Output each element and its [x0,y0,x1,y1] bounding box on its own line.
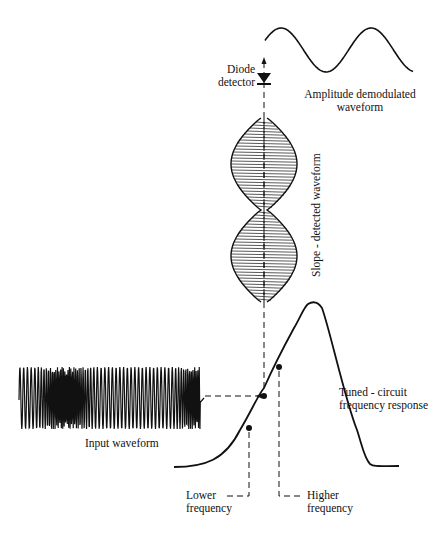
higher-frequency-leader [279,371,303,496]
input-fm-waveform [19,367,204,429]
lower-label-line1: Lower [186,489,232,502]
arrow-up-icon [262,57,267,64]
lower-frequency-label: Lower frequency [186,489,232,515]
lower-frequency-leader [226,432,249,496]
amplitude-demodulated-label: Amplitude demodulated waveform [300,88,420,114]
tuned-circuit-response-curve [174,302,399,467]
center-frequency-point [261,393,267,399]
slope-detected-waveform [231,118,297,302]
tuned-label-line1: Tuned - circuit [339,386,428,399]
amplitude-label-line2: waveform [300,101,420,114]
diode-detector-label: Diode detector [218,63,255,89]
lower-label-line2: frequency [186,502,232,515]
higher-label-line1: Higher [307,489,353,502]
amplitude-label-line1: Amplitude demodulated [300,88,420,101]
higher-frequency-label: Higher frequency [307,489,353,515]
diode-label-line2: detector [218,76,255,89]
lower-frequency-point [246,425,252,431]
slope-detected-label: Slope - detected waveform [310,153,322,277]
input-waveform-label: Input waveform [85,437,159,450]
diode-icon [257,73,271,84]
higher-label-line2: frequency [307,502,353,515]
demodulated-sine-wave [265,28,413,72]
diode-label-line1: Diode [218,63,255,76]
tuned-circuit-label: Tuned - circuit frequency response [339,386,428,412]
higher-frequency-point [276,364,282,370]
tuned-label-line2: frequency response [339,399,428,412]
